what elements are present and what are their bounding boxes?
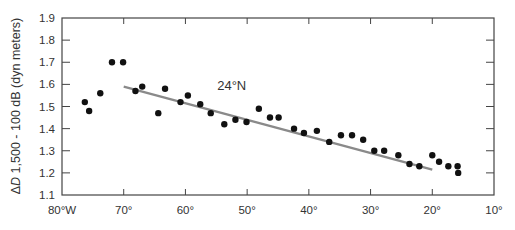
data-point [326, 139, 332, 145]
data-point [82, 99, 88, 105]
y-tick-label: 1.5 [39, 101, 55, 113]
data-point [120, 59, 126, 65]
y-axis-label-rest: 1,500 - 100 dB (dyn meters) [9, 18, 23, 177]
data-point [429, 152, 435, 158]
x-tick-label: 70° [115, 204, 132, 216]
data-point [371, 148, 377, 154]
data-point [395, 152, 401, 158]
y-tick-label: 1.1 [39, 189, 55, 201]
y-axis-label-prefix: Δ [9, 186, 23, 194]
data-point [139, 83, 145, 89]
x-tick-label: 40° [300, 204, 317, 216]
y-tick-label: 1.7 [39, 56, 55, 68]
data-point [381, 148, 387, 154]
data-point [275, 114, 281, 120]
data-point [314, 128, 320, 134]
y-tick-label: 1.9 [39, 12, 55, 24]
data-point [301, 130, 307, 136]
data-point [221, 121, 227, 127]
data-point [454, 163, 460, 169]
data-point [97, 90, 103, 96]
data-point [232, 117, 238, 123]
y-tick-label: 1.2 [39, 167, 55, 179]
data-point [197, 101, 203, 107]
data-point [243, 119, 249, 125]
data-point [436, 159, 442, 165]
data-points [82, 59, 462, 176]
x-axis: 80°W70°60°50°40°30°20°10° [48, 18, 503, 216]
data-point [177, 99, 183, 105]
data-point [455, 170, 461, 176]
y-axis: 1.11.21.31.41.51.61.71.81.9 [39, 12, 494, 201]
data-point [208, 110, 214, 116]
data-point [406, 161, 412, 167]
scatter-chart: 80°W70°60°50°40°30°20°10° 1.11.21.31.41.… [0, 0, 515, 230]
data-point [132, 88, 138, 94]
data-point [267, 114, 273, 120]
x-tick-label: 50° [238, 204, 255, 216]
y-axis-label: ΔD 1,500 - 100 dB (dyn meters) [9, 18, 23, 195]
y-axis-label-italic: D [9, 177, 23, 186]
data-point [185, 92, 191, 98]
y-tick-label: 1.8 [39, 34, 55, 46]
x-tick-label: 30° [362, 204, 379, 216]
x-tick-label: 10° [485, 204, 502, 216]
x-tick-label: 80°W [48, 204, 76, 216]
data-point [349, 132, 355, 138]
y-tick-label: 1.4 [39, 123, 56, 135]
data-point [162, 86, 168, 92]
x-tick-label: 20° [424, 204, 441, 216]
data-point [445, 163, 451, 169]
data-point [416, 163, 422, 169]
y-tick-label: 1.3 [39, 145, 55, 157]
x-tick-label: 60° [177, 204, 194, 216]
data-point [291, 125, 297, 131]
data-point [360, 136, 366, 142]
data-point [338, 132, 344, 138]
y-tick-label: 1.6 [39, 78, 55, 90]
data-point [86, 108, 92, 114]
data-point [155, 110, 161, 116]
data-point [109, 59, 115, 65]
fit-line [124, 87, 433, 170]
data-point [256, 106, 262, 112]
regression-line [124, 87, 433, 170]
latitude-annotation: 24°N [217, 78, 246, 93]
